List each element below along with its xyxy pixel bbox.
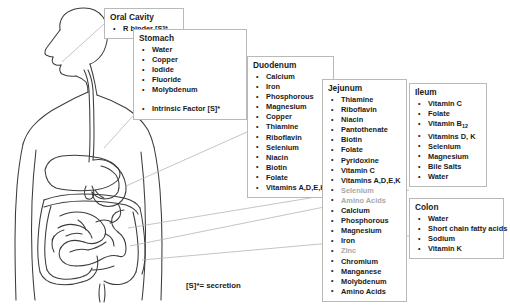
nutrient-item: Selenium [253, 143, 328, 153]
nutrient-item: Biotin [328, 135, 401, 145]
nutrient-item: Copper [253, 112, 328, 122]
box-title-duodenum: Duodenum [253, 60, 328, 71]
nutrient-item: Amino Acids [328, 287, 401, 297]
nutrient-item: Niacin [328, 115, 401, 125]
nutrient-item: Magnesium [415, 152, 481, 162]
nutrient-absorption-diagram: Oral Cavity R binder [S]* Stomach WaterC… [0, 0, 510, 307]
nutrient-item: Intrinsic Factor [S]* [139, 104, 241, 114]
nutrient-item: Vitamin K [415, 244, 498, 254]
item-list-ileum: Vitamin CFolateVitamin B12Vitamins D, KS… [415, 99, 481, 182]
nutrient-item: Iron [328, 236, 401, 246]
nutrient-item: Chromium [328, 257, 401, 267]
nutrient-item: Riboflavin [253, 133, 328, 143]
nutrient-item: Iron [253, 82, 328, 92]
nutrient-item: Phosphorous [328, 216, 401, 226]
nutrient-item: Zinc [328, 246, 401, 256]
nutrient-item: Pyridoxine [328, 156, 401, 166]
nutrient-item: Pantothenate [328, 125, 401, 135]
nutrient-item: Vitamins A,D,E,K [328, 176, 401, 186]
nutrient-item: Short chain fatty acids [415, 224, 498, 234]
nutrient-item: Vitamin C [328, 166, 401, 176]
box-title-stomach: Stomach [139, 33, 241, 44]
footnote-secretion-legend: [S]*= secretion [186, 281, 241, 290]
nutrient-item: Thiamine [328, 95, 401, 105]
box-title-jejunum: Jejunum [328, 83, 401, 94]
nutrient-item: Folate [328, 145, 401, 155]
nutrient-item: Water [415, 172, 481, 182]
nutrient-item: Molybdenum [139, 85, 241, 95]
nutrient-item: Phosphorous [253, 92, 328, 102]
nutrient-item: Riboflavin [328, 105, 401, 115]
nutrient-item: Manganese [328, 267, 401, 277]
label-box-stomach: Stomach WaterCopperIodideFluorideMolybde… [133, 29, 247, 120]
nutrient-item: Vitamins A,D,E,K [253, 183, 328, 193]
nutrient-item: Vitamins D, K [415, 132, 481, 142]
nutrient-item: Selenium [415, 142, 481, 152]
nutrient-item: Selenium [328, 186, 401, 196]
nutrient-item: Magnesium [253, 102, 328, 112]
nutrient-item: Magnesium [328, 226, 401, 236]
label-box-duodenum: Duodenum CalciumIronPhosphorousMagnesium… [247, 56, 334, 198]
nutrient-item: Folate [415, 109, 481, 119]
nutrient-item: Calcium [328, 206, 401, 216]
nutrient-item: Copper [139, 55, 241, 65]
label-box-colon: Colon WaterShort chain fatty acidsSodium… [409, 198, 504, 259]
nutrient-item: Vitamin B12 [415, 119, 481, 132]
item-list-stomach: WaterCopperIodideFluorideMolybdenumIntri… [139, 45, 241, 115]
nutrient-item: Biotin [253, 163, 328, 173]
box-title-ileum: Ileum [415, 87, 481, 98]
item-list-jejunum: ThiamineRiboflavinNiacinPantothenateBiot… [328, 95, 401, 297]
nutrient-item: Vitamin C [415, 99, 481, 109]
nutrient-item: Fluoride [139, 75, 241, 85]
item-list-colon: WaterShort chain fatty acidsSodiumVitami… [415, 214, 498, 254]
nutrient-item: Water [139, 45, 241, 55]
nutrient-item: Molybdenum [328, 277, 401, 287]
nutrient-item: Iodide [139, 65, 241, 75]
label-box-jejunum: Jejunum ThiamineRiboflavinNiacinPantothe… [322, 79, 407, 302]
nutrient-item: Sodium [415, 234, 498, 244]
box-title-colon: Colon [415, 202, 498, 213]
nutrient-item: Niacin [253, 153, 328, 163]
item-list-duodenum: CalciumIronPhosphorousMagnesiumCopperThi… [253, 72, 328, 193]
nutrient-item: Thiamine [253, 122, 328, 132]
label-box-ileum: Ileum Vitamin CFolateVitamin B12Vitamins… [409, 83, 487, 187]
nutrient-item: Water [415, 214, 498, 224]
nutrient-item: Calcium [253, 72, 328, 82]
nutrient-item: Bile Salts [415, 162, 481, 172]
box-title-oral-cavity: Oral Cavity [110, 12, 178, 23]
nutrient-item: Amino Acids [328, 196, 401, 206]
nutrient-item: Folate [253, 173, 328, 183]
